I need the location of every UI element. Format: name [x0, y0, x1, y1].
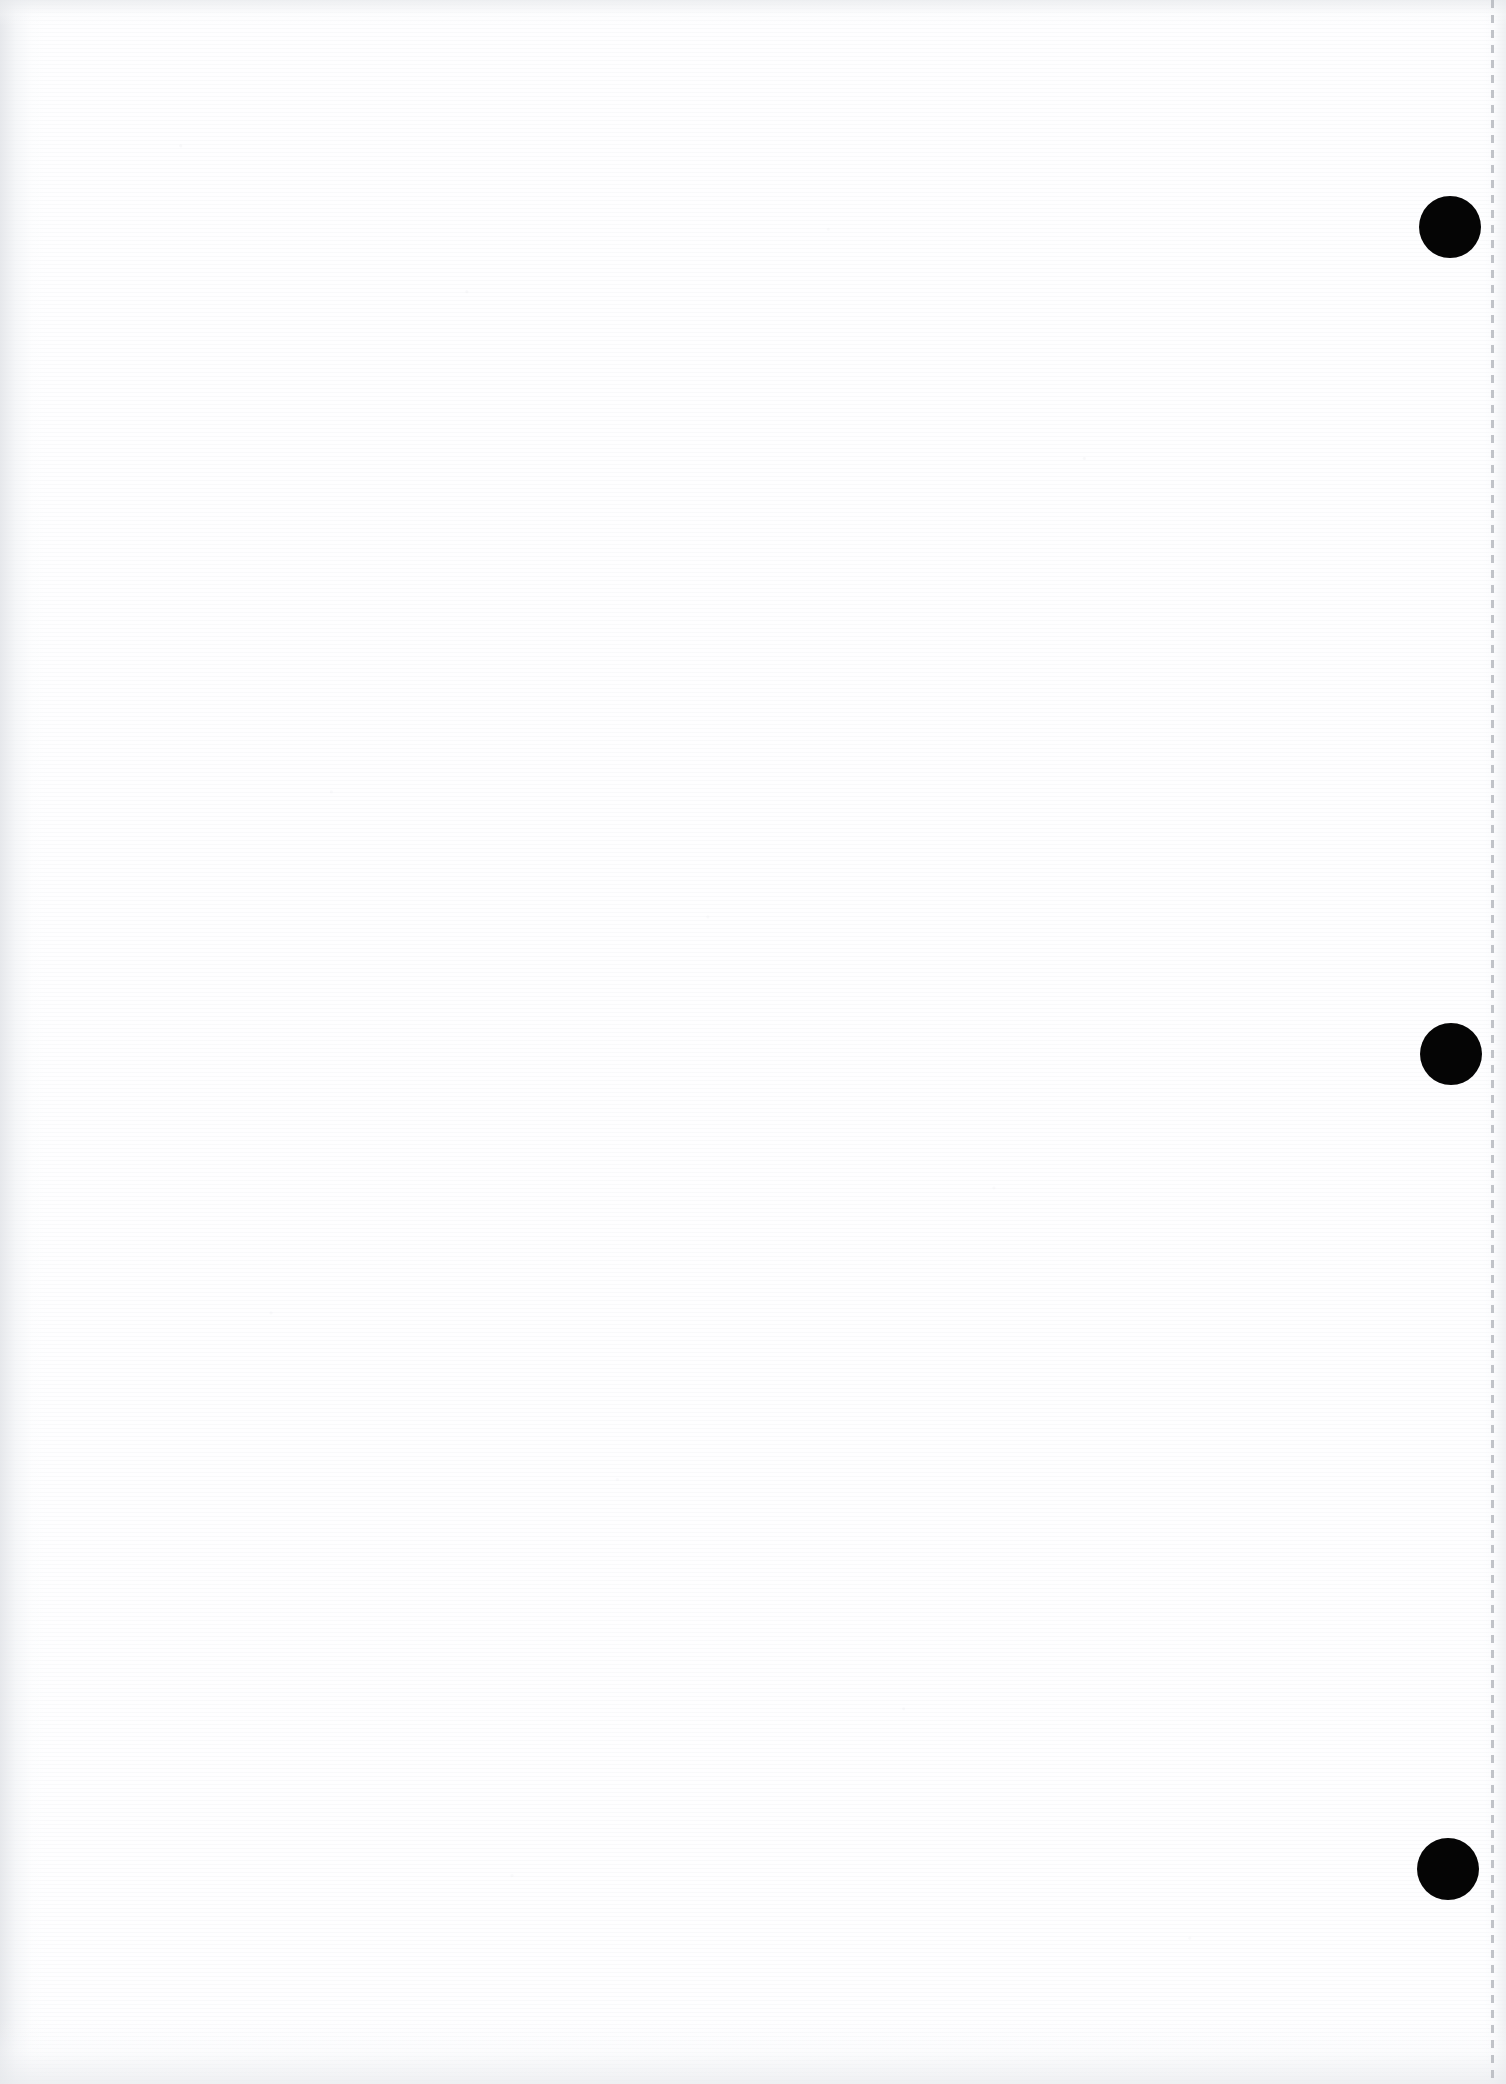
punch-mark-middle — [1420, 1023, 1482, 1085]
paper-background — [0, 0, 1506, 2084]
scanned-page — [0, 0, 1506, 2084]
punch-mark-top — [1419, 196, 1481, 258]
punch-mark-bottom — [1417, 1838, 1479, 1900]
